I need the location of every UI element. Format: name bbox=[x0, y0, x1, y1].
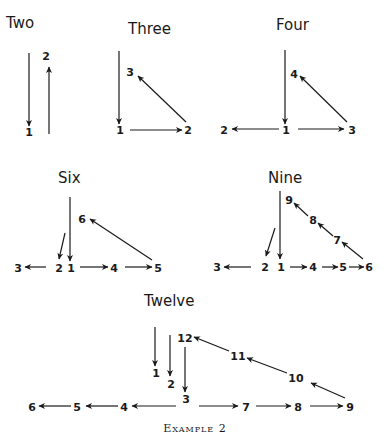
arrow-edge bbox=[342, 242, 363, 259]
arrow-edge bbox=[194, 337, 229, 351]
diagram-four: Four1234 bbox=[220, 16, 356, 137]
arrow-edge bbox=[311, 383, 345, 398]
interval-diagrams-canvas: Two12Three123Four1234Six123456Nine123456… bbox=[0, 0, 390, 446]
node-label: 3 bbox=[14, 262, 22, 275]
node-label: 10 bbox=[288, 372, 304, 385]
node-label: 7 bbox=[242, 401, 250, 414]
node-label: 5 bbox=[339, 261, 347, 274]
node-label: 5 bbox=[154, 262, 162, 275]
node-label: 4 bbox=[110, 262, 118, 275]
diagram-title: Three bbox=[127, 20, 171, 38]
node-label: 2 bbox=[261, 261, 269, 274]
node-label: 1 bbox=[25, 126, 33, 139]
node-label: 8 bbox=[294, 401, 302, 414]
node-label: 3 bbox=[213, 261, 221, 274]
node-label: 2 bbox=[42, 50, 50, 63]
diagram-title: Four bbox=[276, 16, 310, 34]
node-label: 11 bbox=[230, 350, 245, 363]
node-label: 8 bbox=[309, 214, 317, 227]
arrow-edge bbox=[266, 228, 275, 256]
node-label: 1 bbox=[277, 261, 285, 274]
arrow-edge bbox=[138, 76, 186, 122]
diagram-title: Six bbox=[58, 169, 81, 187]
diagram-twelve: Twelve123456789101112 bbox=[28, 292, 354, 414]
node-label: 2 bbox=[184, 124, 192, 137]
node-label: 1 bbox=[152, 367, 160, 380]
diagram-title: Nine bbox=[268, 169, 302, 187]
figure-caption: Example 2 bbox=[163, 422, 226, 435]
node-label: 2 bbox=[55, 262, 63, 275]
node-label: 5 bbox=[73, 401, 81, 414]
diagram-title: Twelve bbox=[143, 292, 194, 310]
node-label: 7 bbox=[333, 234, 341, 247]
node-label: 2 bbox=[167, 378, 175, 391]
arrow-edge bbox=[294, 203, 308, 216]
arrow-edge bbox=[90, 219, 152, 260]
node-label: 3 bbox=[182, 393, 190, 406]
node-label: 6 bbox=[365, 261, 373, 274]
node-label: 3 bbox=[348, 124, 356, 137]
arrow-edge bbox=[318, 223, 333, 236]
diagram-three: Three123 bbox=[116, 20, 192, 137]
node-label: 3 bbox=[126, 66, 134, 79]
node-label: 9 bbox=[285, 194, 293, 207]
diagram-two: Two12 bbox=[5, 14, 50, 139]
diagram-six: Six123456 bbox=[14, 169, 162, 275]
diagram-title: Two bbox=[5, 14, 34, 32]
arrow-edge bbox=[300, 76, 347, 122]
diagram-group: Two12Three123Four1234Six123456Nine123456… bbox=[5, 14, 373, 414]
node-label: 4 bbox=[309, 261, 317, 274]
node-label: 6 bbox=[28, 401, 36, 414]
node-label: 6 bbox=[78, 213, 86, 226]
arrow-edge bbox=[59, 233, 65, 259]
node-label: 1 bbox=[67, 262, 75, 275]
node-label: 1 bbox=[282, 124, 290, 137]
node-label: 2 bbox=[220, 124, 228, 137]
arrow-edge bbox=[247, 358, 287, 373]
node-label: 4 bbox=[290, 68, 298, 81]
node-label: 4 bbox=[120, 401, 128, 414]
node-label: 12 bbox=[177, 332, 192, 345]
node-label: 1 bbox=[116, 124, 124, 137]
diagram-nine: Nine123456789 bbox=[213, 169, 373, 274]
node-label: 9 bbox=[346, 401, 354, 414]
